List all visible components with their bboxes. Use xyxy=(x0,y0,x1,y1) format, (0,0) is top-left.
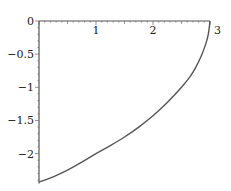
y-tick-label: 0 xyxy=(27,15,34,28)
x-tick-label: 3 xyxy=(214,24,221,37)
y-tick-label: −0.5 xyxy=(7,48,34,61)
x-tick-label: 2 xyxy=(150,24,157,37)
ticks xyxy=(35,21,210,180)
chart: 1230−0.5−1−1.5−2 xyxy=(0,0,231,191)
axes xyxy=(39,21,210,183)
y-tick-label: −2 xyxy=(18,148,34,161)
data-curve xyxy=(39,21,210,182)
x-tick-label: 1 xyxy=(93,24,100,37)
y-tick-label: −1 xyxy=(18,81,34,94)
y-tick-label: −1.5 xyxy=(7,114,34,127)
